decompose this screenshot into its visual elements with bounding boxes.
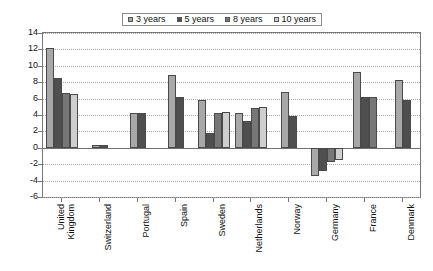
x-axis-tick-mark (213, 198, 214, 202)
bar (395, 80, 403, 148)
bar (361, 97, 369, 148)
legend-entry: 5 years (177, 15, 215, 24)
x-axis-tick-label: Germany (330, 204, 340, 268)
legend-label: 8 years (233, 15, 263, 24)
legend-entry: 10 years (274, 15, 317, 24)
x-axis-tick-mark (61, 198, 62, 202)
bar-group (311, 33, 343, 197)
x-axis-tick-label: Norway (292, 204, 302, 268)
bar (54, 78, 62, 148)
y-axis-tick-label: -2 (4, 159, 38, 168)
x-axis-tick-mark (288, 198, 289, 202)
legend-swatch-icon (274, 17, 279, 22)
legend-swatch-icon (128, 17, 133, 22)
bar (100, 145, 108, 148)
legend-entry: 3 years (128, 15, 166, 24)
bar (92, 145, 100, 148)
bar (46, 48, 54, 148)
legend-label: 3 years (136, 15, 166, 24)
x-axis-tick-mark (402, 198, 403, 202)
y-axis-tick-mark (38, 99, 42, 100)
y-axis-tick-label: 14 (4, 28, 38, 37)
bar (198, 100, 206, 148)
y-axis-tick-label: 8 (4, 77, 38, 86)
y-axis-tick-label: -6 (4, 192, 38, 201)
chart-legend: 3 years5 years8 years10 years (122, 13, 322, 26)
y-axis-tick-label: 0 (4, 143, 38, 152)
bar (319, 148, 327, 171)
x-axis-tick-label: Denmark (406, 204, 416, 268)
x-axis-tick-label: France (368, 204, 378, 268)
y-axis-tick-mark (38, 66, 42, 67)
x-axis-tick-mark (250, 198, 251, 202)
x-axis-tick-label: Sweden (217, 204, 227, 268)
bar (327, 148, 335, 162)
bar (62, 93, 70, 148)
y-axis-tick-mark (38, 197, 42, 198)
bar (281, 92, 289, 148)
bar-group (235, 33, 267, 197)
x-axis-tick-mark (99, 198, 100, 202)
x-axis-tick-mark (137, 198, 138, 202)
bar (243, 121, 251, 148)
bar (403, 100, 411, 148)
x-axis-tick-label: Netherlands (254, 204, 264, 268)
y-axis-tick-label: 2 (4, 126, 38, 135)
x-axis-tick-mark (175, 198, 176, 202)
legend-swatch-icon (177, 17, 182, 22)
bar (353, 72, 361, 147)
bar (168, 75, 176, 148)
legend-label: 5 years (185, 15, 215, 24)
bar (259, 107, 267, 148)
bar-chart: 3 years5 years8 years10 years 1412108642… (0, 0, 433, 271)
bar (311, 148, 319, 176)
bar (251, 108, 259, 147)
y-axis-tick-label: 6 (4, 94, 38, 103)
plot-area (43, 33, 420, 197)
bar-group (198, 33, 230, 197)
bar (138, 113, 146, 147)
bar (70, 94, 78, 148)
x-axis-tick-label: UnitedKingdom (56, 204, 76, 268)
plot-frame (42, 32, 421, 198)
y-axis-tick-mark (38, 49, 42, 50)
bar (130, 113, 138, 147)
bar-group (168, 33, 184, 197)
bar-group (353, 33, 377, 197)
bar (176, 97, 184, 148)
bar (206, 133, 214, 148)
x-axis-tick-mark (326, 198, 327, 202)
y-axis-tick-label: 4 (4, 110, 38, 119)
bar (222, 112, 230, 148)
y-axis-tick-mark (38, 148, 42, 149)
bar (369, 97, 377, 148)
bar (335, 148, 343, 160)
x-axis-tick-mark (364, 198, 365, 202)
x-axis-tick-label: Spain (179, 204, 189, 268)
legend-entry: 8 years (225, 15, 263, 24)
y-axis-tick-mark (38, 82, 42, 83)
y-axis-tick-mark (38, 181, 42, 182)
y-axis-tick-label: -4 (4, 176, 38, 185)
bar-group (46, 33, 78, 197)
y-axis-tick-label: 12 (4, 44, 38, 53)
y-axis-tick-label: 10 (4, 61, 38, 70)
legend-label: 10 years (282, 15, 317, 24)
bar-group (130, 33, 146, 197)
x-axis-tick-label: Portugal (141, 204, 151, 268)
bar (235, 113, 243, 147)
y-axis-tick-mark (38, 164, 42, 165)
y-axis-tick-mark (38, 115, 42, 116)
y-axis-tick-mark (38, 131, 42, 132)
bar-group (92, 33, 108, 197)
bar (289, 116, 297, 148)
bar-group (395, 33, 411, 197)
bar-group (281, 33, 297, 197)
legend-swatch-icon (225, 17, 230, 22)
y-axis-tick-mark (38, 33, 42, 34)
x-axis-tick-label: Switzerland (103, 204, 113, 268)
bar (214, 113, 222, 147)
